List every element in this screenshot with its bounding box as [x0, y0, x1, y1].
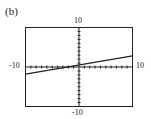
- axes: [26, 28, 133, 107]
- plot-area: [0, 0, 151, 119]
